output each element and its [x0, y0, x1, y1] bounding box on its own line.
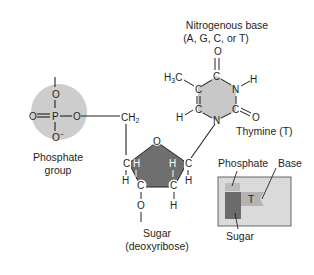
sugar-ring: O C H H C O C H H C H Sugar (deoxyribose… — [122, 136, 193, 252]
sugar-c4: C — [123, 158, 130, 169]
sugar-c4-h-inner: H — [133, 158, 140, 169]
sugar-c3: C — [137, 180, 144, 191]
thymine-o-c2: O — [252, 112, 260, 123]
phosphate-label-line1: Phosphate — [33, 151, 83, 163]
thymine-n1: N — [213, 115, 220, 126]
sugar-c2-h: H — [170, 200, 177, 211]
phosphate-o-left: O — [29, 111, 37, 122]
phosphate-o-right: O — [73, 111, 81, 122]
base-label-line1: Nitrogenous base — [186, 19, 268, 31]
thymine-n3: N — [232, 84, 239, 95]
sugar-ring-oxygen: O — [153, 136, 161, 147]
sugar-c1-h: H — [185, 175, 192, 186]
thymine-name: Thymine (T) — [236, 125, 293, 137]
thymine-n3-h: H — [250, 74, 257, 85]
thymine-o-top: O — [214, 46, 222, 57]
inset-base-label: Base — [278, 157, 302, 169]
sugar-label-line2: (deoxyribose) — [125, 240, 189, 252]
thymine-c4: C — [213, 71, 220, 82]
sugar-c2: C — [170, 180, 177, 191]
thymine-methyl: H3C — [164, 72, 182, 84]
thymine-c5: C — [195, 84, 202, 95]
nucleotide-schematic-inset: Phosphate Base T Sugar — [218, 157, 302, 242]
sugar-c1: C — [185, 158, 192, 169]
phosphate-o-bottom: O− — [52, 131, 64, 143]
sugar-c4-h: H — [122, 175, 129, 186]
phosphate-o-top: O — [52, 89, 60, 100]
thymine-c2: C — [232, 104, 239, 115]
sugar-c2-h-inner: H — [169, 158, 176, 169]
inset-phosphate-label: Phosphate — [218, 157, 268, 169]
sugar-c3-oxygen: O — [137, 200, 145, 211]
thymine-base: Nitrogenous base (A, G, C, or T) O C N H… — [164, 19, 293, 137]
phosphate-group: O P O O O− Phosphate group — [29, 77, 87, 176]
inset-sugar-block — [225, 192, 241, 219]
ch2-group: CH2 — [121, 112, 139, 124]
inset-base-letter: T — [248, 194, 254, 205]
thymine-c6: C — [195, 104, 202, 115]
nucleotide-diagram: O P O O O− Phosphate group CH2 O C H H C — [0, 0, 314, 275]
phosphate-p: P — [52, 111, 59, 122]
thymine-c6-h: H — [176, 112, 183, 123]
inset-sugar-label: Sugar — [226, 230, 255, 242]
glycosidic-bond — [191, 124, 215, 158]
base-label-line2: (A, G, C, or T) — [183, 32, 249, 44]
phosphate-label-line2: group — [45, 164, 72, 176]
sugar-label-line1: Sugar — [143, 227, 172, 239]
